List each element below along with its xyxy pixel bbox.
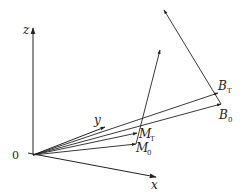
- svg-text:B: B: [218, 108, 228, 122]
- ray-to-B-0: [33, 104, 221, 155]
- svg-text:T: T: [227, 87, 232, 95]
- ray-to-B-T: [33, 93, 218, 155]
- label-M-0: M 0: [135, 141, 151, 157]
- svg-text:0: 0: [228, 116, 232, 124]
- y-axis-label: y: [93, 113, 101, 127]
- label-B-0: B 0: [218, 108, 232, 124]
- svg-text:0: 0: [147, 149, 151, 157]
- origin-label: 0: [12, 149, 19, 162]
- svg-text:T: T: [150, 135, 155, 143]
- vector-from-B-0: [164, 10, 221, 104]
- x-axis-label: x: [151, 178, 158, 192]
- ray-to-M-T: [33, 133, 137, 155]
- vector-diagram: 0 z y x B T B 0 M T M 0: [0, 0, 246, 193]
- x-axis: [28, 153, 156, 177]
- label-B-T: B T: [217, 79, 232, 95]
- z-axis-label: z: [22, 23, 30, 37]
- svg-text:B: B: [217, 79, 227, 93]
